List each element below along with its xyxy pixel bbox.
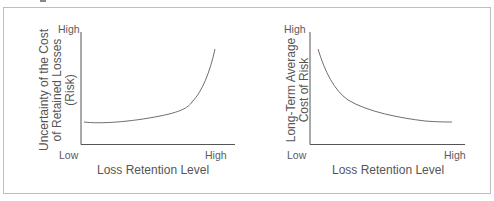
right-chart-axes (310, 32, 465, 145)
left-x-high-label: High (205, 150, 227, 161)
left-y-title-line-3: (Risk) (64, 28, 77, 152)
right-y-title-line-2: Cost of Risk (298, 35, 311, 145)
right-y-high-label: High (284, 24, 306, 35)
right-x-low-label: Low (287, 150, 306, 161)
right-x-axis-title: Loss Retention Level (332, 164, 444, 176)
left-chart-axes (81, 32, 235, 145)
left-y-axis-title: Uncertainty of the Cost of Retained Loss… (38, 28, 78, 152)
right-chart-cost-curve (318, 49, 452, 122)
left-x-axis-title: Loss Retention Level (97, 164, 209, 176)
left-chart-risk-curve (84, 49, 215, 123)
right-y-axis-title: Long-Term Average Cost of Risk (285, 35, 313, 145)
right-x-high-label: High (444, 150, 466, 161)
